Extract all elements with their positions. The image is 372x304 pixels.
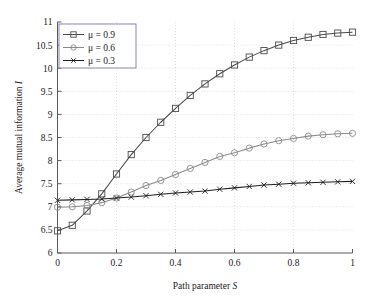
x-tick-label: 1 [350, 258, 355, 268]
y-tick-label: 8.5 [41, 133, 53, 143]
y-tick-label: 7.5 [41, 179, 53, 189]
y-tick-label: 8 [48, 156, 53, 166]
y-tick-label: 10 [43, 64, 53, 74]
x-tick-label: 0.6 [229, 258, 241, 268]
y-axis-title: Average mutual information I [14, 80, 24, 194]
y-tick-label: 11 [43, 17, 52, 27]
chart-plot: 00.20.40.60.8166.577.588.599.51010.511Pa… [0, 0, 372, 304]
y-tick-label: 6 [48, 248, 53, 258]
x-axis-ticks: 00.20.40.60.81 [55, 249, 355, 268]
figure-container: 00.20.40.60.8166.577.588.599.51010.511Pa… [0, 0, 372, 304]
y-tick-label: 7 [48, 202, 53, 212]
x-tick-label: 0.4 [170, 258, 182, 268]
y-tick-label: 10.5 [36, 41, 53, 51]
y-tick-label: 6.5 [41, 225, 53, 235]
x-tick-label: 0.8 [288, 258, 300, 268]
series-2 [54, 130, 355, 210]
y-tick-label: 9.5 [41, 87, 53, 97]
series-line [58, 133, 353, 207]
legend-label: μ = 0.3 [88, 56, 115, 66]
x-tick-label: 0.2 [111, 258, 123, 268]
y-tick-label: 9 [48, 110, 53, 120]
legend-label: μ = 0.6 [88, 43, 115, 53]
x-tick-label: 0 [55, 258, 60, 268]
x-axis-title: Path parameter S [173, 281, 238, 291]
legend: μ = 0.9μ = 0.6μ = 0.3 [59, 24, 136, 68]
legend-label: μ = 0.9 [88, 30, 115, 40]
